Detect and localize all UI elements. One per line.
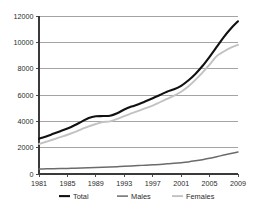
chart-canvas: 020004000600080001000012000 198119851989… (0, 0, 254, 211)
x-tick-label-2005: 2005 (202, 179, 218, 188)
line-chart: 020004000600080001000012000 198119851989… (0, 0, 254, 211)
axes (36, 16, 238, 177)
chart-legend: TotalMalesFemales (59, 192, 215, 201)
legend-label-females: Females (186, 192, 215, 201)
x-tick-label-2009: 2009 (230, 179, 246, 188)
legend-label-males: Males (131, 192, 151, 201)
x-tick-label-2001: 2001 (173, 179, 189, 188)
x-tick-label-1989: 1989 (88, 179, 104, 188)
x-tick-label-1981: 1981 (31, 179, 47, 188)
x-tick-label-1985: 1985 (59, 179, 75, 188)
legend-label-total: Total (73, 192, 89, 201)
y-tick-label-12000: 12000 (14, 12, 34, 21)
y-tick-label-8000: 8000 (18, 64, 34, 73)
y-tick-label-2000: 2000 (18, 143, 34, 152)
x-tick-label-1993: 1993 (116, 179, 132, 188)
x-axis-tick-labels: 19811985198919931997200120052009 (31, 179, 246, 188)
y-axis-tick-labels: 020004000600080001000012000 (14, 12, 34, 179)
y-tick-label-4000: 4000 (18, 117, 34, 126)
x-tick-label-1997: 1997 (145, 179, 161, 188)
series-line-males (39, 152, 238, 169)
y-tick-label-0: 0 (30, 170, 34, 179)
y-tick-label-10000: 10000 (14, 38, 34, 47)
y-tick-label-6000: 6000 (18, 91, 34, 100)
